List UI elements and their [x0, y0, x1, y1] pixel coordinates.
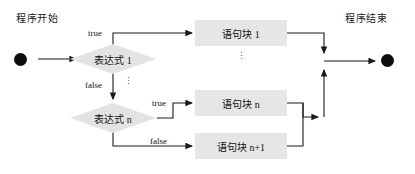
block-n-label: 语句块 n [222, 96, 260, 111]
page-title-end: 程序结束 [345, 10, 387, 25]
page-title-start: 程序开始 [16, 10, 58, 25]
decision-chain-ellipsis: ⋮ [124, 80, 133, 84]
edge-label-false-n: false [150, 136, 167, 146]
block-n1-label: 语句块 n+1 [217, 139, 265, 154]
edge-decision1-true [113, 33, 192, 46]
edge-label-false-1: false [85, 80, 102, 90]
process-block-1[interactable]: 语句块 1 [195, 20, 287, 46]
decision-1-label: 表达式 1 [94, 52, 132, 67]
decision-n-label: 表达式 n [94, 111, 132, 126]
edge-label-true-1: true [88, 28, 102, 38]
edge-label-true-n: true [152, 98, 166, 108]
end-node-dot [381, 54, 394, 67]
block-chain-ellipsis: ⋮ [237, 55, 246, 59]
edge-block1-to-merge [287, 33, 324, 53]
start-node-dot [14, 53, 27, 66]
block-1-label: 语句块 1 [222, 26, 260, 41]
flowchart-diagram: 程序开始 程序结束 表达式 1 表达式 n 语句块 1 语句块 n 语句块 n+… [0, 0, 415, 174]
process-block-n-plus-1[interactable]: 语句块 n+1 [195, 133, 287, 159]
edge-blockN1-join [287, 103, 303, 146]
process-block-n[interactable]: 语句块 n [195, 90, 287, 116]
